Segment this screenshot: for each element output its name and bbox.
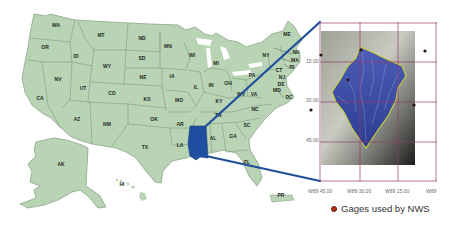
state-label-ok: OK	[150, 116, 158, 122]
y-tick-label: 15.00	[306, 58, 319, 64]
state-label-al: AL	[210, 135, 217, 141]
state-label-ma: MA	[291, 57, 299, 63]
y-tick-label: 45.00	[306, 137, 319, 143]
state-label-va: VA	[251, 91, 258, 97]
state-label-tx: TX	[142, 144, 149, 150]
gage-marker-icon	[331, 206, 337, 212]
state-label-nc: NC	[251, 106, 259, 112]
state-label-il: IL	[194, 84, 198, 90]
gage-point[interactable]	[347, 79, 350, 82]
alaska	[20, 138, 106, 208]
state-label-or: OR	[41, 44, 49, 50]
legend: Gages used by NWS	[331, 203, 430, 214]
state-label-sd: SD	[139, 55, 146, 61]
state-label-wy: WY	[103, 63, 112, 69]
y-tick-label: 30.00	[306, 97, 319, 103]
state-label-la: LA	[177, 142, 184, 148]
state-label-nd: ND	[138, 35, 146, 41]
state-label-mn: MN	[164, 43, 172, 49]
state-mississippi-highlight[interactable]	[188, 126, 208, 160]
gage-point[interactable]	[359, 48, 362, 51]
x-tick-label: W89 45.00	[308, 188, 332, 194]
state-label-ca: CA	[36, 95, 44, 101]
state-label-nv: NV	[55, 76, 63, 82]
state-label-ri: RI	[290, 64, 296, 70]
state-label-ny: NY	[263, 52, 271, 58]
state-label-md: MD	[273, 87, 281, 93]
state-label-ut: UT	[80, 85, 87, 91]
state-label-ia: IA	[170, 73, 175, 79]
gage-point[interactable]	[319, 53, 322, 56]
state-label-az: AZ	[74, 116, 81, 122]
state-label-pa: PA	[249, 72, 256, 78]
state-label-ga: GA	[229, 133, 237, 139]
gage-point[interactable]	[412, 103, 415, 106]
state-label-ks: KS	[144, 96, 152, 102]
state-label-ak: AK	[57, 161, 65, 167]
state-label-oh: OH	[224, 80, 232, 86]
state-label-ky: KY	[216, 98, 224, 104]
legend-label: Gages used by NWS	[341, 203, 430, 214]
state-label-pr: PR	[278, 192, 285, 198]
state-label-mt: MT	[97, 32, 104, 38]
state-label-in: IN	[209, 82, 214, 88]
state-label-me: ME	[283, 31, 291, 37]
state-label-ne: NE	[140, 74, 148, 80]
x-tick-label: W89 30.00	[347, 188, 371, 194]
state-label-ar: AR	[176, 121, 184, 127]
state-label-nm: NM	[103, 121, 111, 127]
state-label-nh: NH	[292, 49, 300, 55]
x-tick-label: W89 15.00	[385, 188, 409, 194]
figure-canvas: WAORCAIDNVMTWYUTCOAZNMNDSDNEKSOKTXMNIAMO…	[0, 0, 451, 227]
state-label-ct: CT	[276, 67, 283, 73]
state-label-wi: WI	[189, 52, 196, 58]
state-label-hi: HI	[120, 181, 126, 187]
gage-point[interactable]	[423, 49, 426, 52]
gage-point[interactable]	[309, 108, 312, 111]
state-label-mi: MI	[213, 60, 219, 66]
state-label-mo: MO	[175, 97, 183, 103]
state-label-sc: SC	[244, 122, 251, 128]
state-label-dc: DC	[285, 94, 293, 100]
us-map: WAORCAIDNVMTWYUTCOAZNMNDSDNEKSOKTXMNIAMO…	[20, 14, 302, 208]
x-tick-label: W89	[426, 188, 437, 194]
state-label-nj: NJ	[279, 74, 286, 80]
state-label-co: CO	[108, 90, 116, 96]
state-label-id: ID	[74, 53, 79, 59]
watershed-inset: 15.00 30.00 45.00 W89 45.00 W89 30.00 W8…	[306, 22, 437, 194]
state-label-wa: WA	[52, 22, 60, 28]
